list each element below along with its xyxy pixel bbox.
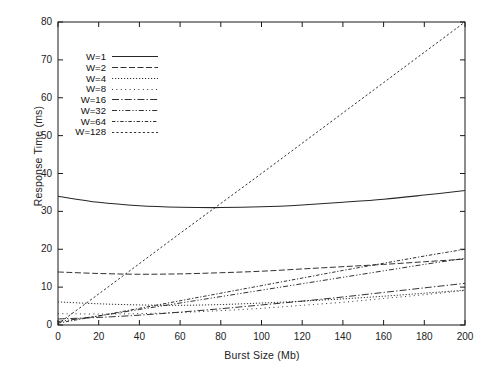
legend-line-swatch xyxy=(111,63,159,72)
y-tick-label: 40 xyxy=(22,168,52,179)
y-tick-label: 10 xyxy=(22,281,52,292)
x-tick-label: 100 xyxy=(245,331,279,342)
x-tick-label: 0 xyxy=(41,331,75,342)
legend-line-swatch xyxy=(111,106,159,115)
legend-label: W=2 xyxy=(66,63,111,73)
y-tick-label: 20 xyxy=(22,243,52,254)
x-tick-label: 60 xyxy=(163,331,197,342)
legend-line-swatch xyxy=(111,52,159,61)
legend-entry-w-4[interactable]: W=4 xyxy=(66,74,159,84)
legend-entry-w-2[interactable]: W=2 xyxy=(66,63,159,73)
series-line-w-8 xyxy=(58,291,465,314)
legend-label: W=4 xyxy=(66,74,111,84)
legend-line-swatch xyxy=(111,85,159,94)
y-tick-label: 80 xyxy=(22,16,52,27)
legend-line-swatch xyxy=(111,95,159,104)
series-line-w-4 xyxy=(58,290,465,305)
legend-entry-w-1[interactable]: W=1 xyxy=(66,52,159,62)
series-line-w-16 xyxy=(58,283,465,319)
legend-label: W=32 xyxy=(66,106,111,116)
x-tick-label: 80 xyxy=(204,331,238,342)
legend-label: W=1 xyxy=(66,52,111,62)
x-tick-label: 20 xyxy=(82,331,116,342)
legend-entry-w-16[interactable]: W=16 xyxy=(66,95,159,105)
y-tick-label: 70 xyxy=(22,54,52,65)
series-line-w-64 xyxy=(58,249,465,323)
legend-line-swatch xyxy=(111,117,159,126)
x-tick-label: 200 xyxy=(448,331,482,342)
series-line-w-2 xyxy=(58,259,465,274)
y-tick-label: 60 xyxy=(22,92,52,103)
y-tick-label: 50 xyxy=(22,130,52,141)
x-tick-label: 120 xyxy=(285,331,319,342)
chart-figure: Response Time (ms) Burst Size (Mb) 01020… xyxy=(0,0,494,370)
legend-entry-w-8[interactable]: W=8 xyxy=(66,84,159,94)
legend-label: W=8 xyxy=(66,84,111,94)
series-line-w-1 xyxy=(58,191,465,208)
legend-label: W=64 xyxy=(66,117,111,127)
legend-entry-w-128[interactable]: W=128 xyxy=(66,127,159,137)
y-tick-label: 30 xyxy=(22,205,52,216)
x-tick-label: 140 xyxy=(326,331,360,342)
legend-label: W=16 xyxy=(66,95,111,105)
chart-legend: W=1W=2W=4W=8W=16W=32W=64W=128 xyxy=(66,52,159,138)
legend-entry-w-64[interactable]: W=64 xyxy=(66,117,159,127)
x-tick-label: 160 xyxy=(367,331,401,342)
legend-label: W=128 xyxy=(66,127,111,137)
x-tick-label: 40 xyxy=(122,331,156,342)
legend-line-swatch xyxy=(111,74,159,83)
x-tick-label: 180 xyxy=(407,331,441,342)
legend-line-swatch xyxy=(111,128,159,137)
legend-entry-w-32[interactable]: W=32 xyxy=(66,106,159,116)
y-tick-label: 0 xyxy=(22,319,52,330)
